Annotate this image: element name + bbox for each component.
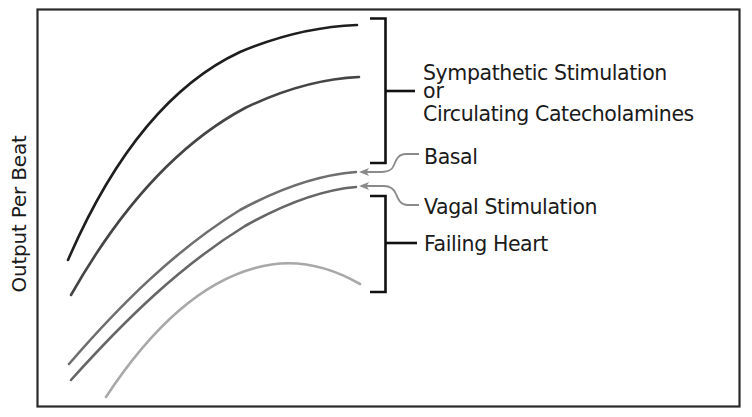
- label-sympathetic-line3: Circulating Catecholamines: [423, 102, 694, 126]
- basal-arrow: [359, 154, 419, 176]
- vagal-arrow: [359, 182, 419, 205]
- failing-heart-bracket: [370, 196, 417, 292]
- sympathetic-low-curve: [71, 77, 359, 295]
- label-failing-heart: Failing Heart: [424, 232, 548, 256]
- sympathetic-high-curve: [68, 25, 357, 260]
- label-sympathetic-line1: Sympathetic Stimulation: [423, 61, 667, 85]
- sympathetic-bracket: [370, 19, 415, 164]
- cardiac-output-diagram: Output Per Beat Sympathetic Stimulation …: [0, 0, 752, 417]
- label-basal: Basal: [424, 145, 478, 169]
- y-axis-label: Output Per Beat: [7, 135, 31, 293]
- label-vagal: Vagal Stimulation: [424, 195, 597, 219]
- label-sympathetic-or: or: [423, 79, 445, 103]
- curves: [68, 25, 360, 397]
- vagal-curve: [71, 187, 356, 380]
